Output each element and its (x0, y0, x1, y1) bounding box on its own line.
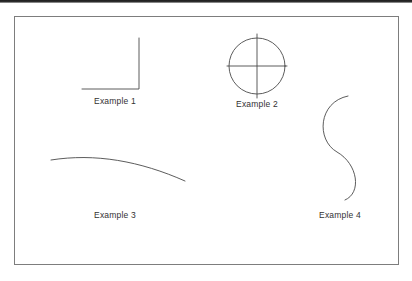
page-scan-edge (0, 0, 412, 3)
figure-label-example-2: Example 2 (202, 99, 312, 109)
figure-label-example-3: Example 3 (60, 210, 170, 220)
figure-label-example-4: Example 4 (285, 210, 395, 220)
figure-label-example-1: Example 1 (60, 96, 170, 106)
figure-frame-border (14, 16, 399, 265)
scanned-page: Example 1 Example 2 Example 3 Example 4 (0, 0, 412, 281)
